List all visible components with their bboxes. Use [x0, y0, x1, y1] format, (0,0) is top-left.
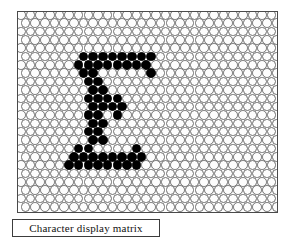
matrix-dot-off[interactable] — [108, 202, 118, 212]
matrix-dot-off[interactable] — [262, 202, 272, 212]
matrix-dot-off[interactable] — [156, 202, 166, 212]
caption-text: Character display matrix — [29, 223, 143, 234]
matrix-dot-off[interactable] — [214, 202, 224, 212]
figure-character-display-matrix: Character display matrix — [0, 0, 290, 238]
caption-box: Character display matrix — [12, 219, 160, 237]
matrix-dot-off[interactable] — [166, 202, 176, 212]
dot-matrix-display[interactable] — [17, 11, 278, 213]
matrix-dot-off[interactable] — [185, 202, 195, 212]
matrix-dot-off[interactable] — [252, 202, 262, 212]
matrix-dot-off[interactable] — [69, 202, 79, 212]
matrix-dot-off[interactable] — [204, 202, 214, 212]
matrix-dot-off[interactable] — [79, 202, 89, 212]
matrix-dot-off[interactable] — [243, 202, 253, 212]
matrix-dot-off[interactable] — [88, 202, 98, 212]
matrix-dot-off[interactable] — [98, 202, 108, 212]
matrix-dot-off[interactable] — [223, 202, 233, 212]
matrix-dot-off[interactable] — [175, 202, 185, 212]
matrix-dot-off[interactable] — [127, 202, 137, 212]
matrix-dot-off[interactable] — [50, 202, 60, 212]
matrix-dot-off[interactable] — [137, 202, 147, 212]
matrix-dot-off[interactable] — [146, 202, 156, 212]
matrix-dot-off[interactable] — [30, 202, 40, 212]
matrix-dot-off[interactable] — [117, 202, 127, 212]
matrix-dot-off[interactable] — [233, 202, 243, 212]
matrix-dot-off[interactable] — [40, 202, 50, 212]
matrix-dot-off[interactable] — [59, 202, 69, 212]
matrix-dot-off[interactable] — [21, 202, 31, 212]
matrix-dot-off[interactable] — [272, 202, 278, 212]
matrix-dot-off[interactable] — [195, 202, 205, 212]
